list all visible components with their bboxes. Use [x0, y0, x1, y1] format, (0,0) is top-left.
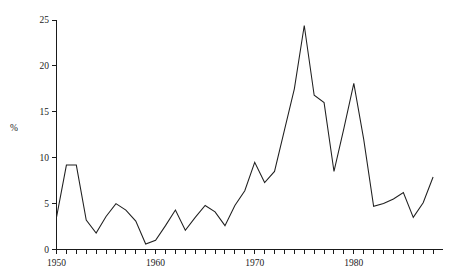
x-axis-tick-label: 1980 — [344, 258, 363, 268]
chart-canvas: 0510152025 1950196019701980 % — [0, 0, 457, 280]
y-axis-title: % — [10, 123, 18, 133]
y-axis-tick-label: 20 — [40, 61, 50, 71]
x-axis — [56, 250, 443, 255]
x-axis-tick-labels: 1950196019701980 — [47, 258, 364, 268]
y-axis-tick-labels: 0510152025 — [40, 15, 50, 255]
y-axis-tick-label: 10 — [40, 153, 50, 163]
data-series-line — [57, 26, 434, 244]
x-axis-tick-label: 1970 — [245, 258, 264, 268]
y-axis — [52, 20, 57, 250]
line-chart: 0510152025 1950196019701980 % — [0, 0, 457, 280]
x-axis-tick-label: 1950 — [47, 258, 66, 268]
y-axis-tick-label: 15 — [40, 107, 50, 117]
y-axis-tick-label: 25 — [40, 15, 50, 25]
x-axis-tick-label: 1960 — [146, 258, 165, 268]
y-axis-tick-label: 0 — [44, 245, 49, 255]
y-axis-tick-label: 5 — [44, 199, 49, 209]
